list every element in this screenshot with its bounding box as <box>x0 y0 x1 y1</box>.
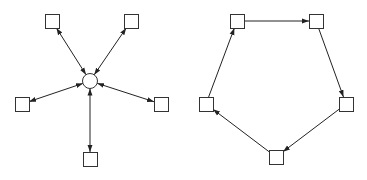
node-r-top-right <box>310 15 324 29</box>
node-r-left <box>200 98 214 112</box>
node-r-bottom <box>270 151 284 165</box>
node-n-left <box>16 98 30 112</box>
edge-hub-to-n-left <box>29 83 83 101</box>
edge-r-bottom-to-r-left <box>213 109 269 151</box>
edge-hub-to-n-right <box>97 83 154 101</box>
hub-node <box>83 74 98 89</box>
diagram-canvas <box>0 0 367 180</box>
node-n-right <box>155 98 169 112</box>
edge-hub-to-n-top-left <box>56 28 86 75</box>
topology-diagrams <box>0 0 367 180</box>
edge-r-top-right-to-r-right <box>319 28 344 97</box>
ring-topology-diagram <box>200 15 354 165</box>
star-topology-diagram <box>16 15 169 167</box>
edge-r-left-to-r-top-left <box>209 28 235 97</box>
edge-hub-to-n-top-right <box>94 28 126 75</box>
node-r-top-left <box>231 15 245 29</box>
edge-r-right-to-r-bottom <box>283 109 339 151</box>
node-n-top-left <box>46 15 60 29</box>
node-n-top-right <box>125 15 139 29</box>
node-r-right <box>340 98 354 112</box>
node-n-bottom <box>84 153 98 167</box>
